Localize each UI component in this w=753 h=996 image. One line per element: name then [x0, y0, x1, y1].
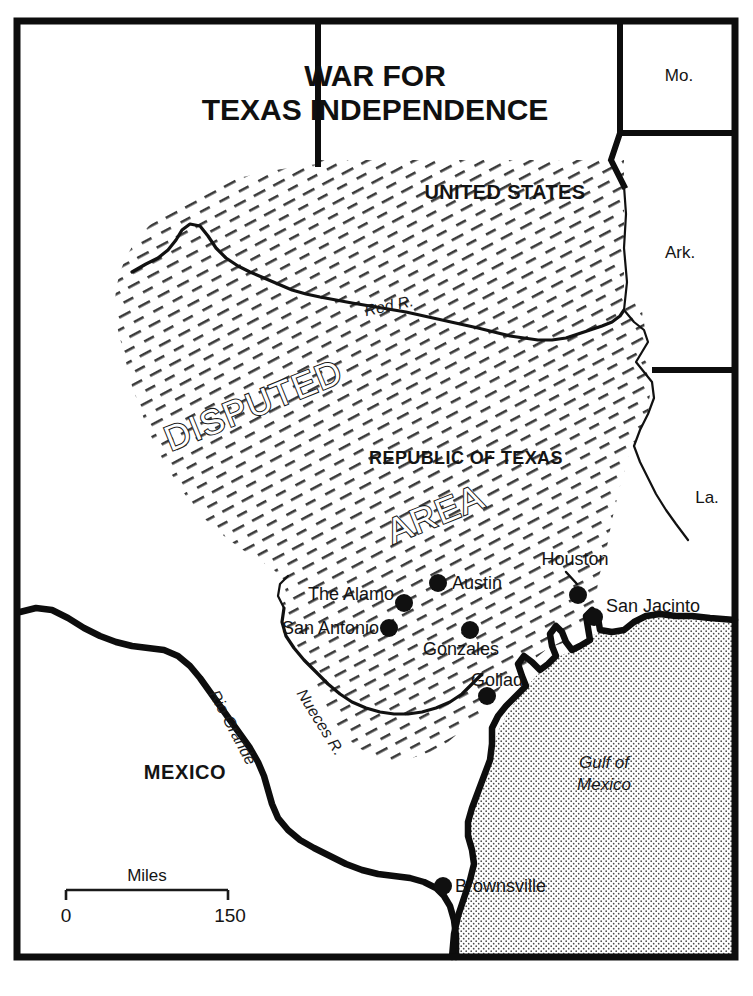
- city-dot-the-alamo: [395, 594, 413, 612]
- map-title-line2: TEXAS INDEPENDENCE: [202, 93, 549, 126]
- state-label-ark: Ark.: [665, 243, 695, 262]
- city-label-san-antonio: San Antonio: [282, 618, 379, 638]
- map-canvas: WAR FOR TEXAS INDEPENDENCE UNITED STATES…: [0, 0, 753, 996]
- city-label-gonzales: Gonzales: [423, 639, 499, 659]
- city-label-the-alamo: The Alamo: [308, 584, 394, 604]
- city-dot-gonzales: [461, 621, 479, 639]
- city-label-brownsville: Brownsville: [455, 876, 546, 896]
- scale-caption: Miles: [127, 866, 167, 885]
- city-dot-brownsville: [434, 877, 452, 895]
- city-label-houston: Houston: [541, 549, 608, 569]
- state-label-la: La.: [695, 488, 719, 507]
- city-label-austin: Austin: [452, 573, 502, 593]
- scale-min-label: 0: [61, 905, 72, 926]
- city-dot-san-antonio: [380, 619, 398, 637]
- water-label-gulf-line1: Gulf of: [579, 753, 631, 772]
- map-title: WAR FOR TEXAS INDEPENDENCE: [202, 59, 549, 126]
- city-dot-houston: [569, 586, 587, 604]
- scale-max-label: 150: [214, 905, 246, 926]
- city-dot-austin: [429, 574, 447, 592]
- water-label-gulf-line2: Mexico: [577, 775, 631, 794]
- city-dot-san-jacinto: [585, 608, 603, 626]
- scale-bar: Miles 0 150: [61, 866, 246, 926]
- region-label-mexico: MEXICO: [144, 761, 227, 783]
- city-label-san-jacinto: San Jacinto: [606, 596, 700, 616]
- map-title-line1: WAR FOR: [304, 59, 446, 92]
- region-label-republic-of-texas: REPUBLIC OF TEXAS: [369, 448, 563, 468]
- map-figure: WAR FOR TEXAS INDEPENDENCE UNITED STATES…: [0, 0, 753, 996]
- river-label-rio-grande: Rio Grande: [206, 687, 259, 767]
- region-label-united-states: UNITED STATES: [424, 181, 585, 203]
- state-label-mo: Mo.: [665, 66, 693, 85]
- city-label-goliad: Goliad: [471, 670, 523, 690]
